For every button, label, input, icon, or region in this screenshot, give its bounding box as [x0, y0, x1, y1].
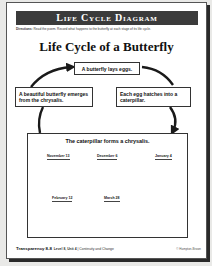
stage-box-chrysalis: The caterpillar forms a chrysalis. Novem… — [27, 133, 188, 238]
arrow-chrysalis-to-emerge — [39, 107, 43, 133]
date-label: February 12 — [52, 196, 72, 202]
stage-box-lays-eggs: A butterfly lays eggs. — [74, 62, 140, 75]
date-label: November 13 — [47, 154, 70, 160]
stage-box-hatches: Each egg hatches into a caterpillar. — [116, 87, 191, 107]
arrow-hatch-to-chrysalis — [170, 107, 175, 131]
transparency-page: Life Cycle Diagram Directions: Read the … — [6, 2, 207, 259]
transparency-number: 8-8 — [46, 246, 52, 251]
stage-text: A beautiful butterfly emerges from the c… — [19, 91, 88, 103]
level-unit: Level 8, Unit 4 — [54, 247, 77, 251]
stage-text: The caterpillar forms a chrysalis. — [28, 138, 187, 144]
arrow-emerge-to-eggs — [31, 67, 71, 87]
unit-title: Continuity and Change — [79, 247, 114, 251]
page-footer: Transparency 8-8 Level 8, Unit 4 | Conti… — [16, 246, 201, 252]
stage-box-emerges: A beautiful butterfly emerges from the c… — [15, 87, 93, 107]
date-label: December 6 — [97, 154, 117, 160]
stage-text: A butterfly lays eggs. — [82, 66, 132, 72]
copyright: © Hampton-Brown — [176, 246, 201, 252]
date-label: March 28 — [104, 196, 120, 202]
stage-text: Each egg hatches into a caterpillar. — [120, 91, 177, 103]
arrow-eggs-to-hatch — [142, 67, 173, 85]
transparency-label: Transparency — [16, 246, 45, 251]
date-label: January 4 — [155, 154, 172, 160]
